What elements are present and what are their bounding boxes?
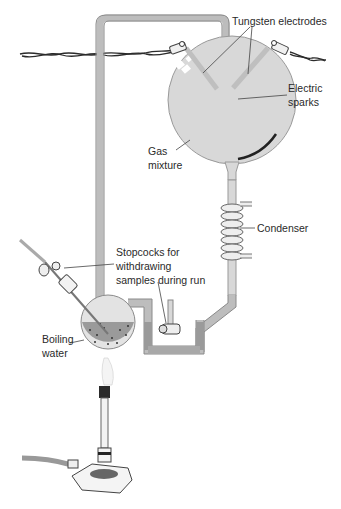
- label-text: mixture: [148, 158, 182, 172]
- label-text: water: [42, 346, 74, 360]
- label-gas-mixture: Gas mixture: [148, 144, 182, 172]
- label-text: samples during run: [116, 273, 205, 287]
- label-text: Tungsten electrodes: [232, 14, 327, 28]
- label-text: Electric: [288, 81, 322, 95]
- label-text: Gas: [148, 144, 182, 158]
- label-text: Condenser: [257, 221, 308, 235]
- label-electric-sparks: Electric sparks: [288, 81, 322, 109]
- label-tungsten-electrodes: Tungsten electrodes: [232, 14, 327, 28]
- label-condenser: Condenser: [257, 221, 308, 235]
- label-stopcocks: Stopcocks for withdrawing samples during…: [116, 245, 205, 287]
- sampling-stopcock: [20, 240, 108, 334]
- label-text: sparks: [288, 95, 322, 109]
- label-boiling-water: Boiling water: [42, 332, 74, 360]
- bunsen-burner: [22, 358, 132, 493]
- boiling-flask: [81, 295, 135, 349]
- label-text: Boiling: [42, 332, 74, 346]
- label-text: withdrawing: [116, 259, 205, 273]
- u-trap: [128, 299, 204, 354]
- spark-flask: [168, 36, 296, 180]
- label-text: Stopcocks for: [116, 245, 205, 259]
